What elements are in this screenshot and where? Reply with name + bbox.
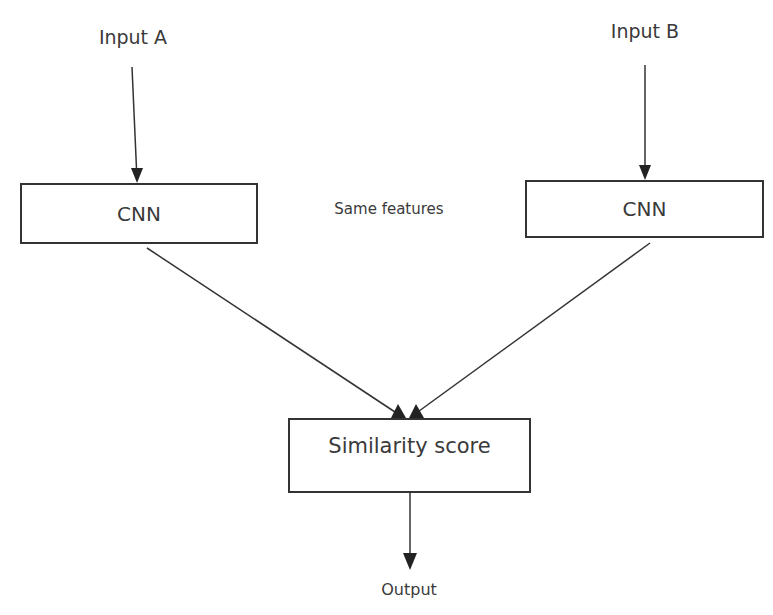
cnn-b-box: CNN: [525, 180, 764, 238]
input-a-label: Input A: [99, 26, 167, 48]
edge-cnn-a-to-similarity: [147, 248, 398, 414]
output-label: Output: [381, 580, 437, 599]
cnn-a-label: CNN: [117, 202, 161, 226]
same-features-annotation: Same features: [334, 200, 443, 218]
arrowhead-icon: [639, 165, 651, 180]
arrowhead-icon: [409, 404, 424, 418]
edge-input-a-to-cnn-a: [132, 67, 137, 180]
similarity-score-box: Similarity score: [288, 418, 531, 493]
arrowhead-icon: [131, 168, 143, 183]
cnn-a-box: CNN: [20, 183, 258, 244]
connector-layer: [0, 0, 773, 615]
similarity-score-label: Similarity score: [328, 434, 490, 458]
edge-cnn-b-to-similarity: [415, 243, 650, 414]
arrowhead-icon: [403, 553, 417, 570]
input-b-label: Input B: [611, 20, 679, 42]
cnn-b-label: CNN: [623, 197, 667, 221]
